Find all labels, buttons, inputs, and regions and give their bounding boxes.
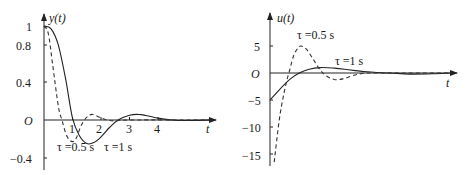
left-xtick-3: 3	[126, 122, 132, 136]
right-annotation-tau-0.5: τ =0.5 s	[297, 28, 335, 42]
left-y-label: y(t)	[48, 11, 66, 25]
right-x-label: t	[446, 76, 450, 90]
left-origin-label: O	[24, 114, 33, 128]
left-xtick-4: 4	[154, 122, 160, 136]
right-ytick-neg5: −5	[248, 94, 261, 108]
left-annotation-tau-0.5: τ =0.5 s	[57, 140, 95, 154]
left-ytick-0.8: 0.8	[16, 39, 31, 53]
right-series-tau-1	[270, 68, 452, 100]
right-annotation-tau-1: τ =1 s	[335, 54, 364, 68]
right-ytick-neg15: −15	[242, 149, 261, 163]
left-ytick-1: 1	[26, 20, 32, 34]
left-x-label: t	[206, 122, 210, 136]
figure: y(t) O 1 0.8 0.4 −0.4 1 2 3 4 t τ =0.5 s…	[0, 0, 468, 175]
right-ytick-5: 5	[254, 40, 260, 54]
chart-y-response: y(t) O 1 0.8 0.4 −0.4 1 2 3 4 t τ =0.5 s…	[10, 11, 216, 170]
right-y-label: u(t)	[277, 11, 294, 25]
chart-u-control: u(t) O 5 −5 −10 −15 t τ =0.5 s τ =1 s	[242, 11, 457, 166]
left-annotation-tau-1: τ =1 s	[104, 140, 133, 154]
left-ytick-neg0.4: −0.4	[10, 152, 32, 166]
left-ytick-0.4: 0.4	[16, 76, 31, 90]
right-origin-label: O	[251, 67, 260, 81]
left-xtick-1: 1	[69, 122, 75, 136]
right-ytick-neg10: −10	[242, 121, 261, 135]
left-xtick-2: 2	[96, 122, 102, 136]
